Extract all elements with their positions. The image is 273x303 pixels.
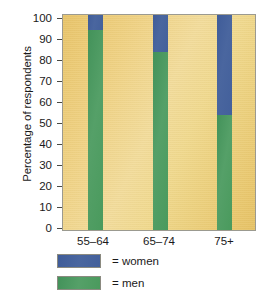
- y-tick-label: 40: [22, 138, 52, 150]
- x-tick-label: 65–74: [129, 234, 189, 248]
- y-tick-label: 70: [22, 75, 52, 87]
- bar-segment-women[interactable]: [88, 14, 103, 30]
- stacked-bar-65-74[interactable]: [153, 14, 168, 230]
- y-tick-label: 90: [22, 33, 52, 45]
- x-tick-label: 75+: [194, 234, 254, 248]
- y-tick-label: 30: [22, 159, 52, 171]
- stacked-bar-75-plus[interactable]: [217, 14, 232, 230]
- y-tick-label: 20: [22, 180, 52, 192]
- bar-segment-men[interactable]: [88, 30, 103, 230]
- y-tick-label: 50: [22, 117, 52, 129]
- y-tick-label: 10: [22, 201, 52, 213]
- x-axis-tick-labels: 55–64 65–74 75+: [62, 234, 256, 250]
- y-tick-label: 0: [22, 222, 52, 234]
- bar-segment-women[interactable]: [217, 14, 232, 115]
- legend-label-men: = men: [112, 276, 144, 290]
- legend-swatch-women-icon: [57, 254, 101, 268]
- legend-item-men[interactable]: = men: [57, 276, 237, 290]
- y-tick-label: 60: [22, 96, 52, 108]
- legend-swatch-men-icon: [57, 276, 101, 290]
- stacked-bar-55-64[interactable]: [88, 14, 103, 230]
- y-tick-label: 100: [22, 12, 52, 24]
- plot-area: [62, 14, 256, 231]
- x-tick-label: 55–64: [63, 234, 123, 248]
- chart-legend: = women = men: [57, 254, 237, 298]
- legend-item-women[interactable]: = women: [57, 254, 237, 268]
- legend-label-women: = women: [112, 254, 159, 268]
- y-tick-label: 80: [22, 54, 52, 66]
- y-axis-tick-labels: 100 90 80 70 60 50 40 30 20 10 0: [22, 13, 52, 230]
- bar-segment-men[interactable]: [153, 52, 168, 230]
- bar-segment-men[interactable]: [217, 115, 232, 230]
- bar-segment-women[interactable]: [153, 14, 168, 52]
